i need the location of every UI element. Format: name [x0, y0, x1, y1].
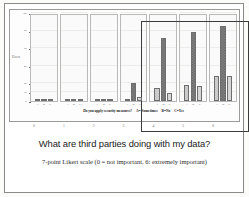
gridline: [91, 82, 117, 83]
chart-panel-1: [60, 14, 88, 102]
gridline: [91, 65, 117, 66]
chart-panel-0: [30, 14, 58, 102]
chart-panel-6: [209, 14, 237, 102]
bar-c-panel-0: [48, 99, 53, 101]
bar-a-panel-3: [125, 99, 130, 101]
likert-number-2: 2: [80, 124, 108, 131]
gridline: [180, 12, 206, 13]
y-axis-tick-label: 10: [24, 92, 27, 95]
gridline: [31, 91, 57, 92]
bar-b-panel-1: [71, 99, 76, 101]
likert-scale-row: 0123456: [20, 124, 227, 131]
y-axis-tick-label: 60: [24, 48, 27, 51]
bar-c-panel-6: [227, 76, 232, 101]
gridline: [61, 47, 87, 48]
y-axis-tick-label: 100: [23, 13, 27, 16]
chart-question-label: Do you apply security measures?: [83, 109, 132, 113]
bar-a-panel-4: [154, 88, 159, 101]
page-title: What are third parties doing with my dat…: [14, 138, 235, 149]
gridline: [31, 82, 57, 83]
gridline: [150, 12, 176, 13]
bar-b-panel-3: [131, 83, 136, 101]
gridline: [61, 82, 87, 83]
gridline: [121, 12, 147, 13]
gridline: [150, 30, 176, 31]
likert-number-3: 3: [110, 124, 138, 131]
gridline: [31, 47, 57, 48]
gridline: [61, 65, 87, 66]
bar-a-panel-5: [184, 85, 189, 101]
page-subtitle: 7-point Likert scale (0 = not important,…: [20, 157, 229, 166]
chart-panel-4: [149, 14, 177, 102]
y-axis-tick-label: 40: [24, 66, 27, 69]
bar-c-panel-3: [137, 97, 142, 101]
gridline: [121, 30, 147, 31]
bar-a-panel-6: [214, 76, 219, 101]
gridline: [61, 91, 87, 92]
slide: Users 01020406080100 ABCABCABCABCABCABCA…: [0, 0, 249, 197]
bar-c-panel-2: [107, 99, 112, 101]
gridline: [180, 30, 206, 31]
chart-panel-5: [179, 14, 207, 102]
gridline: [31, 65, 57, 66]
gridline: [91, 91, 117, 92]
gridline: [91, 30, 117, 31]
bar-a-panel-1: [65, 99, 70, 101]
gridline: [121, 47, 147, 48]
bar-b-panel-0: [41, 99, 46, 101]
likert-number-5: 5: [169, 124, 197, 131]
bar-b-panel-5: [191, 32, 196, 101]
bar-c-panel-1: [78, 99, 83, 101]
likert-number-0: 0: [20, 124, 48, 131]
gridline: [121, 65, 147, 66]
chart-panel-2: [90, 14, 118, 102]
gridline: [61, 12, 87, 13]
legend-item-a: A= Sometimes: [136, 109, 158, 113]
y-axis-tick-label: 80: [24, 30, 27, 33]
bar-c-panel-4: [167, 93, 172, 101]
gridline: [31, 30, 57, 31]
chart-caption-legend: Do you apply security measures?A= Someti…: [30, 109, 237, 113]
bar-b-panel-6: [220, 26, 225, 101]
gridline: [31, 12, 57, 13]
y-axis-tick-label: 0: [25, 101, 26, 104]
bar-a-panel-2: [95, 99, 100, 101]
gridline: [61, 30, 87, 31]
bar-b-panel-4: [161, 38, 166, 101]
bar-a-panel-0: [35, 99, 40, 101]
likert-number-1: 1: [50, 124, 78, 131]
legend-item-b: B=No: [162, 109, 171, 113]
likert-number-6: 6: [199, 124, 227, 131]
bar-b-panel-2: [101, 99, 106, 101]
gridline: [91, 47, 117, 48]
bar-c-panel-5: [197, 86, 202, 101]
legend-item-c: C=Yes: [174, 109, 184, 113]
bar-chart-figure: Users 01020406080100 ABCABCABCABCABCABCA…: [9, 9, 240, 122]
y-axis-tick-label: 20: [24, 83, 27, 86]
gridline: [210, 12, 236, 13]
y-axis-label: Users: [12, 55, 20, 59]
chart-panels: [30, 14, 237, 108]
chart-panel-3: [120, 14, 148, 102]
gridline: [91, 12, 117, 13]
likert-number-4: 4: [139, 124, 167, 131]
